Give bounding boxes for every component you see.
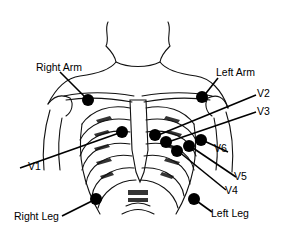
label-left-leg: Left Leg xyxy=(211,208,249,219)
label-v4: V4 xyxy=(225,185,238,196)
electrode-v4 xyxy=(171,145,183,157)
label-v6: V6 xyxy=(214,143,227,154)
label-right-arm: Right Arm xyxy=(36,62,82,73)
electrode-v1 xyxy=(116,126,128,138)
electrode-left-leg xyxy=(188,193,200,205)
electrode-v3 xyxy=(160,136,172,148)
skeleton-outline xyxy=(43,22,233,214)
electrode-left-arm xyxy=(196,91,208,103)
label-v3: V3 xyxy=(257,106,270,117)
electrode-v5 xyxy=(183,140,195,152)
label-v1: V1 xyxy=(28,161,41,172)
electrode-v2 xyxy=(149,129,161,141)
label-right-leg: Right Leg xyxy=(14,211,59,222)
electrode-right-leg xyxy=(90,193,102,205)
electrode-v6 xyxy=(195,134,207,146)
label-v2: V2 xyxy=(257,88,270,99)
label-v5: V5 xyxy=(234,171,247,182)
label-left-arm: Left Arm xyxy=(216,67,255,78)
electrode-right-arm xyxy=(82,94,94,106)
rib-shading xyxy=(94,116,182,202)
